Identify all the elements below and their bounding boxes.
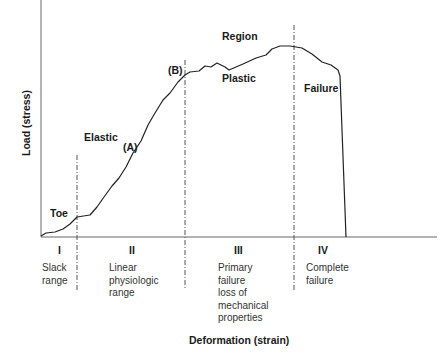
label-elastic: Elastic (84, 132, 118, 143)
region-4-description: Complete failure (306, 262, 349, 287)
label-toe: Toe (50, 208, 68, 219)
label-plastic: Plastic (222, 73, 256, 84)
label-region: Region (222, 31, 258, 42)
region-4-numeral: IV (318, 245, 328, 256)
label-point-a: (A) (123, 142, 138, 153)
region-3-numeral: III (234, 245, 243, 256)
region-2-numeral: II (129, 245, 135, 256)
region-2-description: Linear physiologic range (109, 262, 158, 300)
region-1-description: Slack range (42, 262, 68, 287)
region-3-description: Primary failure loss of mechanical prope… (218, 262, 269, 325)
y-axis-title: Load (stress) (20, 90, 32, 156)
x-axis-title: Deformation (strain) (189, 335, 289, 346)
label-point-b: (B) (168, 65, 183, 76)
label-failure: Failure (304, 83, 338, 94)
region-1-numeral: I (58, 245, 61, 256)
